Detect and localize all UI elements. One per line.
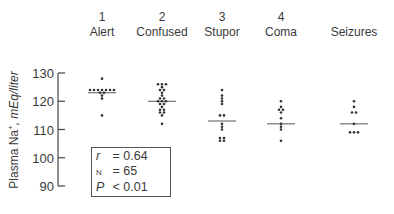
data-point xyxy=(351,111,354,114)
data-point xyxy=(221,123,224,126)
data-point xyxy=(280,117,283,120)
r-value: = 0.64 xyxy=(112,149,147,163)
data-point xyxy=(165,83,168,86)
data-point xyxy=(159,103,162,106)
y-axis-label: Plasma Na+, mEq/liter xyxy=(6,70,21,188)
data-point xyxy=(165,100,168,103)
data-point xyxy=(103,91,106,94)
data-point xyxy=(221,128,224,131)
series-confused xyxy=(148,83,176,125)
data-point xyxy=(101,77,104,80)
data-point xyxy=(161,100,164,103)
y-tick-label: 130 xyxy=(32,66,54,81)
data-point xyxy=(280,140,283,143)
data-point xyxy=(223,137,226,140)
data-point xyxy=(221,89,224,92)
data-point xyxy=(163,111,166,114)
stats-r: r = 0.64 xyxy=(96,149,166,164)
y-tick-label: 90 xyxy=(40,179,54,194)
data-point xyxy=(219,140,222,143)
n-value: = 65 xyxy=(112,164,137,178)
category-label: Coma xyxy=(265,25,297,39)
category-number: 1 xyxy=(99,10,106,24)
data-point xyxy=(157,83,160,86)
data-point xyxy=(93,89,96,92)
data-point xyxy=(280,100,283,103)
data-point xyxy=(282,108,285,111)
data-point xyxy=(163,97,166,100)
series-coma xyxy=(267,100,295,142)
stats-box: r = 0.64 N = 65 P < 0.01 xyxy=(91,147,171,197)
category-number: 2 xyxy=(159,10,166,24)
y-tick-label: 100 xyxy=(32,151,54,166)
data-point xyxy=(161,86,164,89)
data-point xyxy=(280,128,283,131)
n-label: N xyxy=(96,165,109,180)
data-point xyxy=(355,111,358,114)
y-tick-label: 110 xyxy=(33,123,54,138)
data-point xyxy=(353,131,356,134)
category-number: 3 xyxy=(219,10,226,24)
data-point xyxy=(159,97,162,100)
data-point xyxy=(161,123,164,126)
data-point xyxy=(163,103,166,106)
data-point xyxy=(353,106,356,109)
data-point xyxy=(221,103,224,106)
category-number: 4 xyxy=(278,10,285,24)
data-point xyxy=(219,114,222,117)
stats-p: P < 0.01 xyxy=(96,180,166,195)
data-point xyxy=(105,89,108,92)
series-alert xyxy=(88,77,116,116)
category-label: Alert xyxy=(90,25,115,39)
p-label: P xyxy=(96,180,109,195)
data-point xyxy=(221,100,224,103)
data-point xyxy=(159,111,162,114)
y-tick-label: 120 xyxy=(32,94,54,109)
data-point xyxy=(161,91,164,94)
r-label: r xyxy=(96,149,109,164)
category-label: Seizures xyxy=(331,25,378,39)
data-point xyxy=(353,100,356,103)
data-point xyxy=(278,108,281,111)
data-point xyxy=(280,106,283,109)
data-point xyxy=(219,137,222,140)
data-point xyxy=(101,114,104,117)
data-point xyxy=(157,100,160,103)
data-point xyxy=(223,140,226,143)
scatter-chart: 90100110120130 1Alert2Confused3Stupor4Co… xyxy=(0,0,394,214)
data-point xyxy=(353,123,356,126)
category-label: Stupor xyxy=(204,25,239,39)
data-point xyxy=(159,89,162,92)
stats-n: N = 65 xyxy=(96,164,166,180)
data-point xyxy=(280,123,283,126)
series-stupor xyxy=(208,89,236,142)
data-point xyxy=(101,94,104,97)
data-point xyxy=(109,89,112,92)
data-point xyxy=(349,131,352,134)
data-point xyxy=(101,89,104,92)
category-label: Confused xyxy=(136,25,187,39)
data-point xyxy=(101,97,104,100)
data-point xyxy=(163,89,166,92)
data-point xyxy=(221,125,224,128)
data-point xyxy=(161,94,164,97)
data-point xyxy=(221,97,224,100)
data-point xyxy=(221,94,224,97)
category-headers: 1Alert2Confused3Stupor4ComaSeizures xyxy=(90,10,378,39)
data-point xyxy=(159,108,162,111)
data-point xyxy=(97,89,100,92)
data-point xyxy=(89,89,92,92)
data-point xyxy=(280,125,283,128)
p-value: < 0.01 xyxy=(112,180,147,194)
data-point xyxy=(113,89,116,92)
data-point xyxy=(357,131,360,134)
data-point xyxy=(280,111,283,114)
data-point xyxy=(223,114,226,117)
data-points xyxy=(88,77,368,142)
y-axis: 90100110120130 xyxy=(32,66,65,194)
data-point xyxy=(161,106,164,109)
data-point xyxy=(163,108,166,111)
y-axis-title: Plasma Na+, mEq/liter xyxy=(6,70,21,188)
series-seizures xyxy=(340,100,368,134)
data-point xyxy=(99,91,102,94)
